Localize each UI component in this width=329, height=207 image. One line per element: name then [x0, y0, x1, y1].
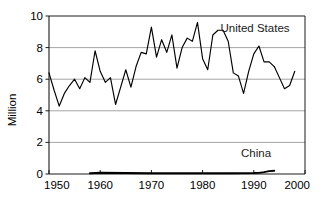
- y-tick-label-2: 2: [37, 136, 43, 148]
- chart-container: 0246810 195019601970198019902000 Million…: [0, 0, 329, 207]
- y-tick-label-10: 10: [30, 10, 43, 22]
- y-tick-label-6: 6: [37, 73, 43, 85]
- series-label-china: China: [241, 147, 272, 159]
- x-tick-label-1990: 1990: [241, 179, 267, 191]
- x-tick-label-1970: 1970: [139, 179, 165, 191]
- x-tick-label-1950: 1950: [44, 179, 70, 191]
- y-tick-label-0: 0: [37, 168, 43, 180]
- y-tick-label-4: 4: [37, 105, 44, 117]
- series-label-united-states: United States: [221, 22, 290, 34]
- x-tick-label-1980: 1980: [190, 179, 216, 191]
- y-tick-label-8: 8: [37, 42, 43, 54]
- line-chart: 0246810 195019601970198019902000 Million…: [0, 0, 329, 207]
- x-tick-label-2000: 2000: [284, 179, 310, 191]
- x-tick-label-1960: 1960: [87, 179, 113, 191]
- y-axis-title: Million: [6, 94, 18, 127]
